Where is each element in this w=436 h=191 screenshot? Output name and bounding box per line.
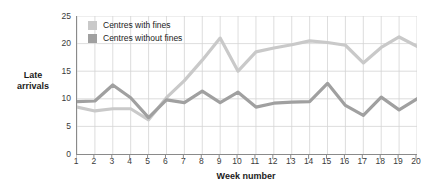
legend-item: Centres without fines (88, 33, 182, 43)
x-axis-title: Week number (76, 171, 416, 181)
legend-item: Centres with fines (88, 20, 182, 30)
series-line-centres-with-fines (77, 37, 417, 120)
legend-swatch-icon (88, 34, 97, 43)
x-axis-ticks (76, 155, 420, 161)
chart-container: Late arrivals 0510152025 123456789101112… (0, 0, 436, 191)
series-line-centres-without-fines (77, 83, 417, 117)
legend: Centres with finesCentres without fines (88, 20, 182, 43)
legend-item-label: Centres with fines (103, 20, 171, 30)
legend-swatch-icon (88, 21, 97, 30)
legend-item-label: Centres without fines (103, 33, 182, 43)
